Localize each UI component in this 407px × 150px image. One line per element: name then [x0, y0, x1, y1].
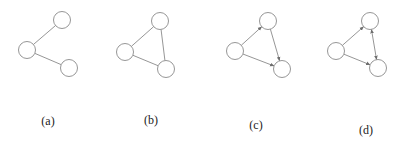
node-left	[227, 43, 244, 60]
graph-panel-c	[227, 13, 291, 78]
panel-label: (d)	[359, 123, 373, 138]
edge-left-bottom	[344, 54, 370, 65]
graph-panel-b	[117, 13, 175, 78]
node-top	[54, 12, 71, 29]
node-top	[152, 13, 169, 30]
edge-left-bottom	[35, 53, 61, 64]
edge-left-top	[131, 27, 153, 47]
node-bottom	[274, 61, 291, 78]
graph-panel-d	[328, 13, 387, 77]
edge-left-bottom	[133, 55, 158, 65]
edge-left-top	[241, 27, 261, 46]
node-top	[362, 13, 379, 30]
edge-left-bottom	[243, 54, 274, 66]
edge-top-bottom	[270, 29, 279, 61]
edge-top-bottom	[371, 29, 376, 59]
edge-top-bottom	[161, 29, 165, 60]
panel-label: (a)	[41, 114, 54, 129]
node-bottom	[158, 61, 175, 78]
graph-figure	[0, 0, 407, 150]
edge-left-top	[342, 27, 363, 46]
node-bottom	[61, 60, 78, 77]
graph-panel-a	[19, 12, 78, 77]
node-left	[328, 43, 345, 60]
node-left	[117, 44, 134, 61]
node-left	[19, 42, 36, 59]
panel-label: (b)	[144, 113, 158, 128]
edge-left-top	[33, 26, 55, 45]
node-top	[260, 13, 277, 30]
panel-label: (c)	[249, 118, 262, 133]
node-bottom	[370, 60, 387, 77]
